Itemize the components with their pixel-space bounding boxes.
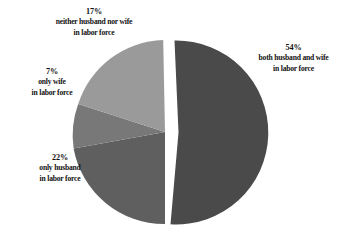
slice-percent-husband: 22% [4,152,116,163]
slice-label-neither: 17% neither husband nor wife in labor fo… [14,6,174,38]
slice-desc-both-line1: both husband and wife [242,53,345,64]
pie-chart: 17% neither husband nor wife in labor fo… [0,0,345,240]
slice-desc-both-line2: in labor force [242,64,345,75]
slice-percent-neither: 17% [14,6,174,17]
slice-desc-husband-line1: only husband [4,163,116,174]
slice-label-both: 54% both husband and wife in labor force [242,42,345,74]
slice-label-husband: 22% only husband in labor force [4,152,116,184]
slice-desc-wife-line2: in labor force [2,88,102,99]
slice-percent-both: 54% [242,42,345,53]
slice-desc-neither-line1: neither husband nor wife [14,17,174,28]
slice-label-wife: 7% only wife in labor force [2,66,102,98]
pie-slices [73,40,269,224]
slice-desc-wife-line1: only wife [2,77,102,88]
slice-percent-wife: 7% [2,66,102,77]
slice-desc-husband-line2: in labor force [4,174,116,185]
slice-desc-neither-line2: in labor force [14,28,174,39]
